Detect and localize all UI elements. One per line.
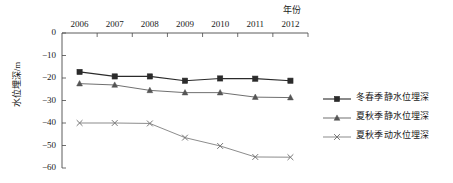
chart-legend: 冬春季静水位埋深夏秋季静水位埋深夏秋季动水位埋深 [322, 87, 453, 144]
data-point-square [182, 78, 187, 83]
square-marker-icon [253, 76, 258, 81]
legend-item-2[interactable]: 夏秋季动水位埋深 [322, 125, 453, 144]
legend-item-0[interactable]: 冬春季静水位埋深 [322, 87, 453, 106]
legend-item-1[interactable]: 夏秋季静水位埋深 [322, 106, 453, 125]
data-point-square [112, 74, 117, 79]
square-marker-icon [147, 74, 152, 79]
legend-label-2: 夏秋季动水位埋深 [356, 128, 430, 141]
series-line [80, 123, 291, 157]
data-point-cross [182, 135, 188, 141]
square-marker-icon [334, 96, 339, 101]
legend-label-1: 夏秋季静水位埋深 [356, 109, 430, 122]
legend-label-0: 冬春季静水位埋深 [356, 90, 430, 103]
data-point-square [253, 76, 258, 81]
square-marker-icon [288, 78, 293, 83]
legend-marker-cross-icon [322, 129, 352, 141]
legend-marker-square-icon [322, 91, 352, 103]
data-point-square [147, 74, 152, 79]
legend-marker-triangle-icon [322, 110, 352, 122]
data-point-cross [217, 143, 223, 149]
data-point-square [218, 76, 223, 81]
square-marker-icon [182, 78, 187, 83]
series-0 [77, 69, 293, 83]
data-point-square [77, 69, 82, 74]
data-point-triangle [77, 81, 83, 86]
triangle-marker-icon [77, 81, 83, 86]
square-marker-icon [112, 74, 117, 79]
data-point-square [288, 78, 293, 83]
series-2 [77, 120, 294, 160]
square-marker-icon [218, 76, 223, 81]
data-point-square [334, 96, 339, 101]
line-chart: 年份 水位埋深/m 2006200720082009201020112012 0… [0, 0, 453, 183]
square-marker-icon [77, 69, 82, 74]
